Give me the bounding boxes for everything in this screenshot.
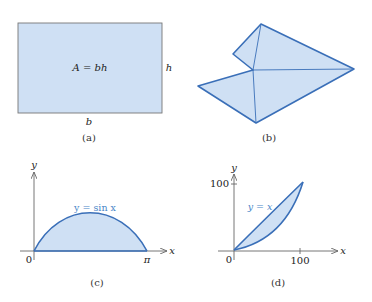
caption-c: (c) [90, 277, 104, 288]
panel-a: A = bh h b (a) [18, 23, 172, 143]
caption-d: (d) [271, 277, 285, 288]
x-tick-label: 100 [290, 255, 309, 266]
y-axis-label: y [30, 159, 37, 170]
figure: A = bh h b (a) (b) y = sin x y x 0 π (c)… [0, 0, 372, 302]
base-label: b [86, 116, 92, 127]
panel-d: y = x y x 0 100 100 (d) [210, 162, 346, 288]
panel-c: y = sin x y x 0 π (c) [20, 159, 175, 288]
area-under-sine [34, 213, 147, 251]
origin-label: 0 [226, 254, 232, 265]
y-axis-label: y [230, 162, 237, 173]
caption-b: (b) [262, 132, 276, 143]
panel-b: (b) [198, 24, 354, 143]
curve-label: y = x [247, 201, 273, 212]
curve-label: y = sin x [73, 202, 116, 213]
x-axis-label: x [340, 245, 346, 256]
height-label: h [166, 62, 172, 73]
x-axis-label: x [169, 245, 175, 256]
caption-a: (a) [82, 132, 96, 143]
pi-label: π [143, 254, 151, 265]
upper-curve [234, 182, 303, 250]
origin-label: 0 [26, 254, 32, 265]
y-tick-label: 100 [210, 178, 229, 189]
polygon-region [198, 24, 354, 123]
area-formula: A = bh [72, 62, 108, 73]
